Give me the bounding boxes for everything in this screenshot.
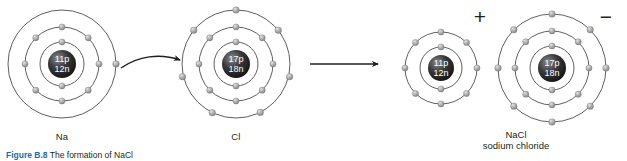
atom-chlorine: 17p 18n <box>179 7 293 118</box>
figure-caption-number: Figure B.8 <box>6 150 48 160</box>
sodium-nucleus-protons: 11p <box>55 54 69 64</box>
figure-formation-of-nacl: 11p 12n <box>0 0 627 161</box>
sodium-ion-nucleus-neutrons: 12n <box>433 68 448 78</box>
sodium-ion-charge-sign: + <box>468 6 492 27</box>
curved-transfer-arrow <box>121 56 180 68</box>
product-formula-label: NaCl <box>456 129 576 141</box>
chlorine-atom-label: Cl <box>216 131 256 142</box>
chloride-ion-charge-sign: − <box>594 6 618 27</box>
chloride-ion-nucleus-neutrons: 18n <box>544 68 559 78</box>
sodium-ion-nucleus-protons: 11p <box>434 58 448 68</box>
figure-caption-text: The formation of NaCl <box>48 150 133 160</box>
ion-chloride: 17p 18n <box>495 11 610 126</box>
ion-sodium: 11p 12n <box>402 29 480 107</box>
chlorine-nucleus-protons: 17p <box>228 54 243 64</box>
chloride-ion-nucleus-protons: 17p <box>544 58 559 68</box>
product-name-label: sodium chloride <box>456 140 576 152</box>
sodium-nucleus-neutrons: 12n <box>54 64 69 74</box>
chlorine-nucleus-neutrons: 18n <box>228 64 243 74</box>
sodium-valence-electron <box>113 61 120 68</box>
figure-caption: Figure B.8 The formation of NaCl <box>6 150 133 160</box>
sodium-atom-label: Na <box>42 131 82 142</box>
atom-sodium: 11p 12n <box>8 10 119 118</box>
